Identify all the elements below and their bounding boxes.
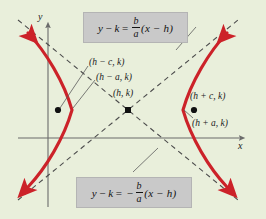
center-label: (h, k) xyxy=(113,89,133,99)
upper-asymptote-formula-box: y − k = b a (x − h) xyxy=(83,12,188,43)
upper-eq-y: y xyxy=(98,22,103,34)
lower-eq-minus: − xyxy=(99,187,105,199)
upper-eq-rhs: (x − h) xyxy=(141,22,173,34)
right-branch xyxy=(183,33,227,187)
x-axis-label: x xyxy=(238,141,242,151)
lower-eq-negative-sign: − xyxy=(127,187,133,199)
upper-eq-minus: − xyxy=(105,22,111,34)
upper-asymptote-equation: y − k = b a (x − h) xyxy=(98,16,173,39)
left-vertex-label: (h − a, k) xyxy=(96,73,132,83)
leader-lower-formula xyxy=(133,148,158,172)
upper-eq-fraction: b a xyxy=(132,16,139,39)
leader-lines xyxy=(60,27,196,172)
points-group xyxy=(55,107,197,113)
lower-eq-k: k xyxy=(108,187,113,199)
lower-eq-equals: = xyxy=(116,187,122,199)
right-vertex-label: (h + a, k) xyxy=(192,119,228,129)
lower-asymptote-formula-box: y − k = − b a (x − h) xyxy=(76,177,192,208)
lower-eq-numerator: b xyxy=(136,181,143,191)
upper-eq-denominator: a xyxy=(132,29,139,39)
left-focus-point xyxy=(55,107,61,113)
left-branch xyxy=(28,33,72,187)
lower-eq-fraction: b a xyxy=(136,181,143,204)
lower-eq-y: y xyxy=(92,187,97,199)
right-focus-label: (h + c, k) xyxy=(190,92,225,102)
left-focus-label: (h − c, k) xyxy=(89,58,124,68)
y-axis-label: y xyxy=(38,12,42,22)
upper-eq-equals: = xyxy=(122,22,128,34)
upper-eq-k: k xyxy=(114,22,119,34)
lower-eq-rhs: (x − h) xyxy=(144,187,176,199)
center-point xyxy=(125,107,131,113)
lower-eq-denominator: a xyxy=(136,194,143,204)
upper-eq-numerator: b xyxy=(132,16,139,26)
right-focus-point xyxy=(191,107,197,113)
lower-asymptote-equation: y − k = − b a (x − h) xyxy=(92,181,177,204)
hyperbola-figure: y x (h − c, k) (h − a, k) (h, k) (h + c,… xyxy=(0,0,266,219)
